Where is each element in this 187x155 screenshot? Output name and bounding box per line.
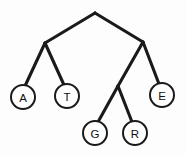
tree-node-t-label: T bbox=[63, 91, 70, 103]
tree-node-r: R bbox=[123, 121, 147, 145]
tree-node-a-label: A bbox=[19, 92, 27, 104]
tree-edge-left-internal-to-a bbox=[25, 43, 45, 86]
tree-edge-right-internal-to-e bbox=[143, 42, 159, 84]
tree-node-a: A bbox=[11, 85, 35, 109]
tree-node-r-label: R bbox=[131, 128, 139, 140]
tree-edge-root-to-left-internal bbox=[45, 13, 95, 43]
tree-edge-root-to-right-internal bbox=[95, 13, 143, 42]
tree-edge-right-internal-to-mid-internal bbox=[118, 42, 143, 86]
tree-node-t: T bbox=[55, 84, 79, 108]
tree-edges-group bbox=[25, 13, 159, 122]
tree-node-g-label: G bbox=[91, 128, 100, 140]
tree-node-e-label: E bbox=[158, 90, 166, 102]
tree-nodes-group: A T G R E bbox=[11, 83, 174, 145]
tree-diagram: A T G R E bbox=[0, 0, 187, 155]
tree-edge-mid-internal-to-r bbox=[118, 86, 132, 122]
tree-node-g: G bbox=[83, 121, 107, 145]
tree-canvas: A T G R E bbox=[0, 0, 187, 155]
tree-edge-mid-internal-to-g bbox=[98, 86, 118, 122]
tree-node-e: E bbox=[150, 83, 174, 107]
tree-edge-left-internal-to-t bbox=[45, 43, 64, 85]
